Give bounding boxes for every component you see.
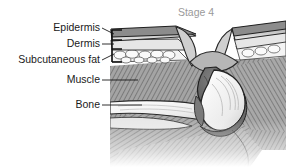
label-muscle: Muscle [67,73,100,85]
bottom-fade-overlay [110,120,286,167]
label-subcutaneous-fat: Subcutaneous fat [18,53,100,65]
label-epidermis: Epidermis [53,21,100,33]
label-dermis: Dermis [67,37,100,49]
pressure-ulcer-stage-diagram: Stage 4 [0,0,286,167]
figure-container: Stage 4 [0,0,286,167]
anatomy-illustration [110,21,286,167]
figure-title: Stage 4 [178,6,214,18]
label-bone: Bone [75,98,100,110]
